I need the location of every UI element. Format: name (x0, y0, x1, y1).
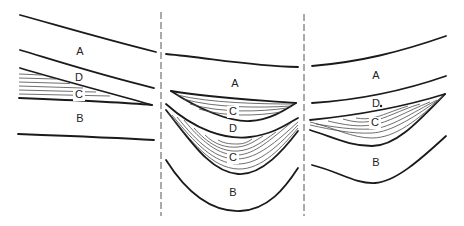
bed-b-bottom (18, 134, 154, 140)
label-d: D (229, 122, 237, 134)
label-c-upper: C (229, 105, 237, 117)
label-c: C (75, 88, 83, 100)
label-a: A (372, 69, 380, 81)
label-a: A (231, 77, 239, 89)
bed-a-top (20, 15, 156, 52)
laminations-left (19, 74, 110, 96)
label-b: B (76, 112, 83, 124)
label-c-lower: C (229, 151, 237, 163)
bed-a-top (166, 54, 298, 67)
label-c: C (371, 116, 379, 128)
label-d: D (372, 97, 380, 109)
label-b: B (372, 156, 379, 168)
label-d: D (75, 71, 83, 83)
bed-a-top (312, 36, 446, 66)
dot-marker (380, 105, 382, 107)
label-a: A (76, 45, 84, 57)
label-b: B (229, 186, 236, 198)
upper-lens-top (171, 91, 296, 103)
geologic-cross-section: A D C B A C D C B A D C B (0, 0, 464, 226)
labels-right: A D C B (369, 69, 382, 168)
panel-left (18, 15, 156, 140)
